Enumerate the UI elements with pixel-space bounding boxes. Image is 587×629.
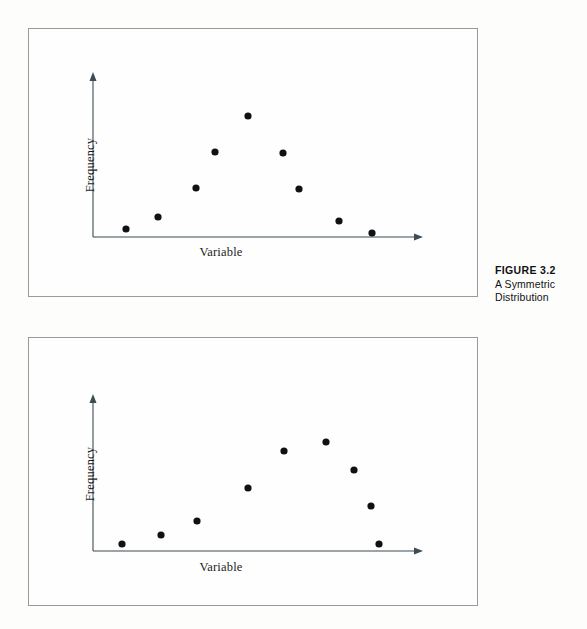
y-axis-arrowhead xyxy=(90,394,97,403)
data-point xyxy=(375,540,382,547)
x-axis-arrowhead xyxy=(414,548,423,555)
data-point xyxy=(118,540,125,547)
x-axis-label: Variable xyxy=(29,245,479,260)
y-axis-arrowhead xyxy=(90,72,97,81)
data-point xyxy=(122,225,129,232)
y-axis-label: Frequency xyxy=(83,105,97,225)
data-point xyxy=(350,466,357,473)
x-axis-arrowhead xyxy=(414,234,423,241)
figure-frame: Variable Frequency xyxy=(28,28,478,297)
data-point xyxy=(368,229,375,236)
figure-caption-line-2: Distribution xyxy=(495,291,587,304)
data-point-group xyxy=(118,438,382,547)
data-point-group xyxy=(122,112,375,236)
data-point xyxy=(154,213,161,220)
figure-caption-title: FIGURE 3.2 xyxy=(495,264,587,277)
data-point xyxy=(335,217,342,224)
plot-area-negatively-skewed: Variable Frequency xyxy=(29,338,479,607)
scanned-page: Variable Frequency FIGURE 3.2 A Symmetri… xyxy=(0,0,587,629)
data-point xyxy=(244,112,251,119)
data-point xyxy=(367,502,374,509)
x-axis-label-text: Variable xyxy=(199,560,242,574)
figure-caption-line-1: A Symmetric xyxy=(495,278,587,291)
figure-caption: FIGURE 3.2 A Symmetric Distribution xyxy=(495,264,587,303)
x-axis-label: Variable xyxy=(29,560,479,575)
x-axis-label-text: Variable xyxy=(199,245,242,259)
data-point xyxy=(279,149,286,156)
figure-frame: Variable Frequency xyxy=(28,337,478,606)
y-axis-label: Frequency xyxy=(83,414,97,534)
data-point xyxy=(280,447,287,454)
data-point xyxy=(157,531,164,538)
data-point xyxy=(295,185,302,192)
plot-area-symmetric: Variable Frequency xyxy=(29,29,479,298)
data-point xyxy=(322,438,329,445)
data-point xyxy=(192,184,199,191)
data-point xyxy=(211,148,218,155)
data-point xyxy=(193,517,200,524)
data-point xyxy=(244,484,251,491)
